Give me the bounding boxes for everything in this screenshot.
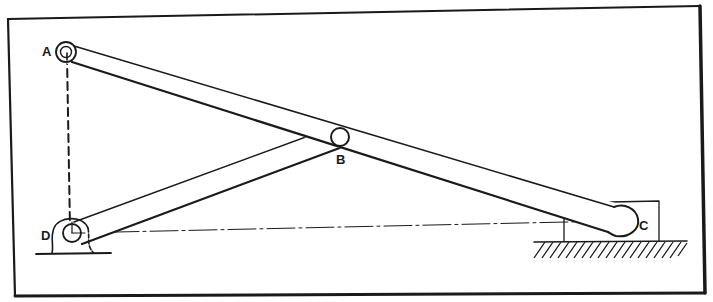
label-D: D (41, 228, 50, 243)
ground-hatch (534, 241, 687, 258)
label-A: A (42, 44, 52, 59)
pin-A (56, 42, 76, 62)
label-B: B (336, 152, 345, 167)
centerline-DC (72, 221, 612, 233)
label-C: C (639, 218, 649, 233)
dashed-line-AD (67, 56, 70, 228)
pin-B (331, 128, 349, 146)
linkage-diagram: A B C D (0, 0, 713, 302)
link-DB (74, 127, 347, 244)
